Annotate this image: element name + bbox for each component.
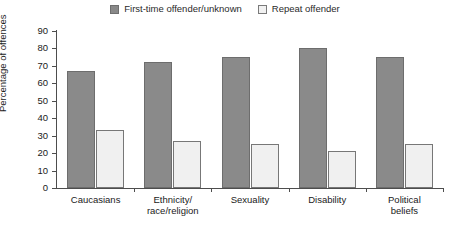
x-axis-line bbox=[56, 188, 444, 189]
bar-first-time-offender bbox=[67, 71, 95, 188]
y-axis-tick-label: 20 bbox=[0, 148, 48, 158]
bar-repeat-offender bbox=[251, 144, 279, 188]
legend-item-label: First-time offender/unknown bbox=[124, 4, 242, 14]
x-axis-category-label: Caucasians bbox=[57, 194, 134, 205]
x-axis-category-label: Sexuality bbox=[211, 194, 288, 205]
y-axis-tick-label: 0 bbox=[0, 183, 48, 193]
y-axis-tick-mark bbox=[52, 171, 56, 172]
bar-group bbox=[299, 31, 356, 188]
bar-repeat-offender bbox=[328, 151, 356, 188]
x-axis-tick-mark bbox=[443, 188, 444, 192]
y-axis-tick-label: 50 bbox=[0, 96, 48, 106]
y-axis-tick-mark bbox=[52, 66, 56, 67]
y-axis-tick-label: 10 bbox=[0, 166, 48, 176]
x-axis-category-label: Ethnicity/race/religion bbox=[134, 194, 211, 216]
x-axis-category-label: Politicalbeliefs bbox=[366, 194, 443, 216]
legend-item-label: Repeat offender bbox=[272, 4, 340, 14]
chart-legend: First-time offender/unknown Repeat offen… bbox=[0, 4, 450, 14]
category-label-line: race/religion bbox=[134, 205, 211, 216]
legend-swatch-icon bbox=[110, 5, 119, 14]
legend-swatch-icon bbox=[258, 5, 267, 14]
y-axis-tick-label: 60 bbox=[0, 78, 48, 88]
category-label-line: Sexuality bbox=[211, 194, 288, 205]
y-axis-tick-mark bbox=[52, 136, 56, 137]
legend-item-first-time-offender: First-time offender/unknown bbox=[110, 4, 242, 14]
bar-group bbox=[376, 31, 433, 188]
bar-repeat-offender bbox=[173, 141, 201, 188]
y-axis-tick-label: 30 bbox=[0, 131, 48, 141]
x-axis-tick-mark bbox=[366, 188, 367, 192]
y-axis-tick-label: 90 bbox=[0, 26, 48, 36]
bar-first-time-offender bbox=[376, 57, 404, 188]
bar-first-time-offender bbox=[299, 48, 327, 188]
category-label-line: beliefs bbox=[366, 205, 443, 216]
bar-repeat-offender bbox=[96, 130, 124, 188]
y-axis-tick-mark bbox=[52, 101, 56, 102]
x-axis-tick-mark bbox=[211, 188, 212, 192]
y-axis-tick-mark bbox=[52, 48, 56, 49]
y-axis-tick-label: 70 bbox=[0, 61, 48, 71]
y-axis-tick-mark bbox=[52, 83, 56, 84]
bar-group bbox=[67, 31, 124, 188]
bar-chart: First-time offender/unknown Repeat offen… bbox=[0, 0, 450, 229]
plot-area bbox=[57, 31, 443, 188]
bar-group bbox=[222, 31, 279, 188]
category-label-line: Disability bbox=[289, 194, 366, 205]
y-axis-tick-mark bbox=[52, 153, 56, 154]
bar-repeat-offender bbox=[405, 144, 433, 188]
category-label-line: Ethnicity/ bbox=[134, 194, 211, 205]
y-axis-tick-label: 80 bbox=[0, 43, 48, 53]
y-axis-tick-label: 40 bbox=[0, 113, 48, 123]
bar-first-time-offender bbox=[144, 62, 172, 188]
category-label-line: Political bbox=[366, 194, 443, 205]
bar-first-time-offender bbox=[222, 57, 250, 188]
bar-group bbox=[144, 31, 201, 188]
legend-item-repeat-offender: Repeat offender bbox=[258, 4, 340, 14]
x-axis-category-label: Disability bbox=[289, 194, 366, 205]
y-axis-tick-mark bbox=[52, 31, 56, 32]
category-label-line: Caucasians bbox=[57, 194, 134, 205]
x-axis-tick-mark bbox=[134, 188, 135, 192]
y-axis-tick-mark bbox=[52, 188, 56, 189]
y-axis-tick-mark bbox=[52, 118, 56, 119]
x-axis-tick-mark bbox=[289, 188, 290, 192]
